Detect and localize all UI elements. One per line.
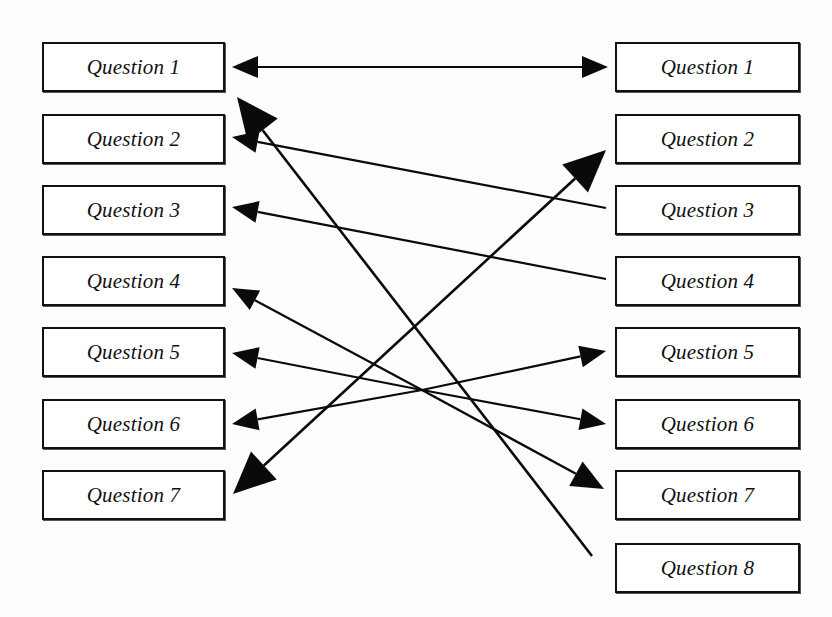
left-question-label-3: Question 3 <box>87 198 181 223</box>
left-question-label-7: Question 7 <box>87 483 181 508</box>
left-question-label-4: Question 4 <box>87 269 181 294</box>
left-question-box-4[interactable]: Question 4 <box>42 256 225 306</box>
right-question-label-3: Question 3 <box>661 198 755 223</box>
edge-left-q7-right-q2-arrowhead-end <box>562 150 606 192</box>
edge-hub-right-q7[interactable] <box>422 390 576 474</box>
right-question-box-8[interactable]: Question 8 <box>615 543 800 593</box>
edge-left-q1-right-q1-arrowhead-end <box>582 56 608 78</box>
edge-hub-left-q6-arrowhead-end <box>232 409 260 431</box>
edge-hub-right-q6-arrowhead-end <box>578 408 606 430</box>
edge-left-q1-right-q1-arrowhead-start <box>232 56 258 78</box>
edge-hub-right-q6[interactable] <box>422 390 580 419</box>
left-question-box-6[interactable]: Question 6 <box>42 399 225 449</box>
left-question-label-5: Question 5 <box>87 340 181 365</box>
diagram-canvas: Question 1Question 2Question 3Question 4… <box>0 0 832 617</box>
right-question-label-5: Question 5 <box>661 340 755 365</box>
right-question-box-4[interactable]: Question 4 <box>615 256 800 306</box>
right-question-box-3[interactable]: Question 3 <box>615 185 800 235</box>
edge-hub-right-q5-arrowhead-end <box>578 346 606 368</box>
left-question-label-2: Question 2 <box>87 127 181 152</box>
left-question-box-2[interactable]: Question 2 <box>42 114 225 164</box>
right-question-label-7: Question 7 <box>661 483 755 508</box>
left-question-label-6: Question 6 <box>87 412 181 437</box>
edge-right-q3-left-q2-arrowhead-end <box>232 131 260 153</box>
right-question-label-8: Question 8 <box>661 556 755 581</box>
edge-right-q4-left-q3[interactable] <box>258 212 606 279</box>
right-question-label-1: Question 1 <box>661 55 755 80</box>
connection-edges-layer <box>0 0 832 617</box>
left-question-label-1: Question 1 <box>87 55 181 80</box>
left-question-box-5[interactable]: Question 5 <box>42 327 225 377</box>
edge-hub-left-q5[interactable] <box>258 358 422 390</box>
edge-hub-left-q4[interactable] <box>255 300 422 390</box>
left-question-box-3[interactable]: Question 3 <box>42 185 225 235</box>
right-question-box-5[interactable]: Question 5 <box>615 327 800 377</box>
right-question-box-6[interactable]: Question 6 <box>615 399 800 449</box>
right-question-box-1[interactable]: Question 1 <box>615 42 800 92</box>
right-question-label-6: Question 6 <box>661 412 755 437</box>
right-question-box-7[interactable]: Question 7 <box>615 470 800 520</box>
edge-hub-right-q7-arrowhead-end <box>569 461 604 489</box>
edge-right-q4-left-q3-arrowhead-end <box>232 201 260 223</box>
edge-hub-right-q5[interactable] <box>422 356 581 390</box>
edge-right-q8-left-q1[interactable] <box>263 130 592 556</box>
left-question-box-7[interactable]: Question 7 <box>42 470 225 520</box>
right-question-label-2: Question 2 <box>661 127 755 152</box>
left-question-box-1[interactable]: Question 1 <box>42 42 225 92</box>
right-question-box-2[interactable]: Question 2 <box>615 114 800 164</box>
edge-hub-left-q4-arrowhead-end <box>232 288 260 310</box>
right-question-label-4: Question 4 <box>661 269 755 294</box>
edge-left-q7-right-q2-arrowhead-start <box>233 452 277 494</box>
edge-hub-left-q5-arrowhead-end <box>232 347 260 369</box>
edge-right-q3-left-q2[interactable] <box>258 142 606 208</box>
